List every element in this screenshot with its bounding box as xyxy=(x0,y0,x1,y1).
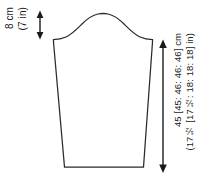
cap-depth-imperial-label: (7 in) xyxy=(18,7,29,30)
sleeve-schematic-diagram: 8 cm (7 in) 45 [45: 46: 46: 46] cm (17½ … xyxy=(0,0,213,195)
cap-depth-arrow xyxy=(37,11,44,40)
sleeve-length-label-group: 45 [45: 46: 46: 46] cm (17½ [17½: 18: 18… xyxy=(173,33,195,151)
sleeve-length-metric-label: 45 [45: 46: 46: 46] cm xyxy=(173,33,183,127)
cap-depth-metric-label: 8 cm xyxy=(5,7,16,29)
sleeve-outline-path xyxy=(54,14,153,167)
sleeve-length-imperial-label: (17½ [17½: 18: 18: 18] in) xyxy=(185,33,195,151)
sleeve-length-arrow xyxy=(159,40,167,174)
cap-depth-label-group: 8 cm (7 in) xyxy=(5,7,28,30)
